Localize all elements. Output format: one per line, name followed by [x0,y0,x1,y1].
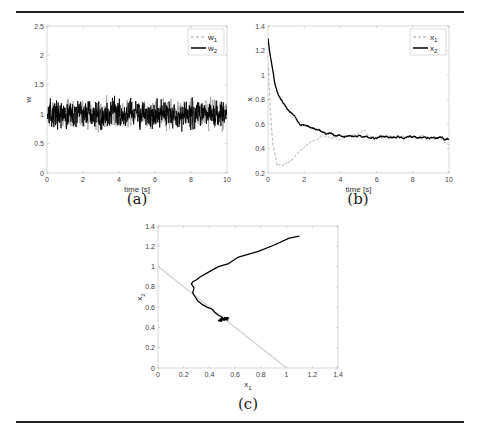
legend: x1x2 [410,29,446,55]
y-axis-label: x [245,98,254,102]
x-tick-label: 0.6 [230,371,240,378]
x-tick-label: 0.4 [205,371,215,378]
axes-box [158,226,338,368]
y-tick-label: 2 [40,52,44,59]
x-tick-label: 10 [445,176,453,183]
x-tick-label: 6 [153,176,157,183]
caption-c: (c) [238,395,258,413]
y-tick-label: 0.5 [34,140,44,147]
x-tick-label: 6 [375,176,379,183]
x-tick-label: 4 [338,176,342,183]
x-tick-label: 8 [411,176,415,183]
x-tick-label: 8 [189,176,193,183]
x-tick-label: 0.8 [256,371,266,378]
x-tick-label: 10 [223,176,231,183]
y-tick-label: 0.6 [145,304,155,311]
x-tick-label: 4 [117,176,121,183]
legend: w1w2 [188,29,224,55]
y-tick-label: 1.5 [34,81,44,88]
x-axis-label: x1 [244,380,252,391]
y-tick-label: 0.2 [145,344,155,351]
y-tick-label: 0.4 [255,145,265,152]
x-tick-label: 1.2 [307,371,317,378]
y-tick-label: 1 [151,263,155,270]
chart-c-phase-portrait: 00.20.40.60.811.21.400.20.40.60.811.21.4… [135,223,343,391]
y-tick-label: 2.5 [34,23,44,30]
y-axis-label: x2 [135,293,146,301]
x-tick-label: 0 [266,176,270,183]
y-tick-label: 1 [261,72,265,79]
y-tick-label: 0.4 [145,324,155,331]
figure-canvas: 024681000.511.522.5time [s]ww1w2 0246810… [0,0,481,434]
caption-a: (a) [127,190,148,208]
y-tick-label: 1.2 [255,47,265,54]
x-tick-label: 1.4 [333,371,343,378]
caption-b: (b) [347,190,368,208]
y-tick-label: 1 [40,111,44,118]
x-tick-label: 2 [81,176,85,183]
y-axis-label: w [24,96,33,103]
y-tick-label: 0.8 [255,96,265,103]
y-tick-label: 1.4 [255,23,265,30]
y-tick-label: 0 [151,365,155,372]
x-tick-label: 0 [45,176,49,183]
x-tick-label: 0 [156,371,160,378]
y-tick-label: 0.6 [255,121,265,128]
y-tick-label: 0.8 [145,283,155,290]
chart-b-x-vs-time: 02468100.20.40.60.811.21.4time [s]xx1x2 [245,23,453,195]
x-tick-label: 1 [285,371,289,378]
chart-a-w-vs-time: 024681000.511.522.5time [s]ww1w2 [24,23,231,195]
y-tick-label: 0.2 [255,170,265,177]
y-tick-label: 0 [40,170,44,177]
x-tick-label: 2 [302,176,306,183]
x-tick-label: 0.2 [179,371,189,378]
y-tick-label: 1.2 [145,243,155,250]
y-tick-label: 1.4 [145,223,155,230]
